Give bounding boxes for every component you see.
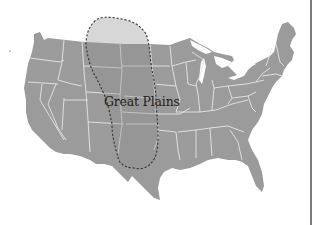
region-label-great-plains: Great Plains (104, 94, 180, 109)
us-map (0, 0, 314, 225)
right-edge-divider (310, 0, 312, 225)
stray-mark (9, 50, 11, 52)
